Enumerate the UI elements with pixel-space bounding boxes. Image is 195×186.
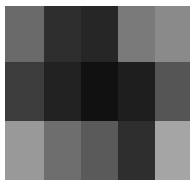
heatmap-cell-r2-c2 [81, 121, 118, 180]
heatmap-cell-r0-c3 [118, 6, 155, 62]
heatmap-cell-r0-c1 [44, 6, 81, 62]
heatmap-cell-r2-c3 [118, 121, 155, 180]
heatmap-cell-r2-c0 [5, 121, 44, 180]
heatmap-cell-r2-c1 [44, 121, 81, 180]
heatmap-cell-r1-c0 [5, 62, 44, 121]
heatmap-cell-r0-c0 [5, 6, 44, 62]
heatmap-cell-r0-c4 [155, 6, 190, 62]
heatmap-grid [5, 6, 190, 180]
heatmap-cell-r1-c2 [81, 62, 118, 121]
heatmap-cell-r1-c3 [118, 62, 155, 121]
heatmap-cell-r1-c4 [155, 62, 190, 121]
heatmap-cell-r0-c2 [81, 6, 118, 62]
heatmap-cell-r1-c1 [44, 62, 81, 121]
heatmap-cell-r2-c4 [155, 121, 190, 180]
